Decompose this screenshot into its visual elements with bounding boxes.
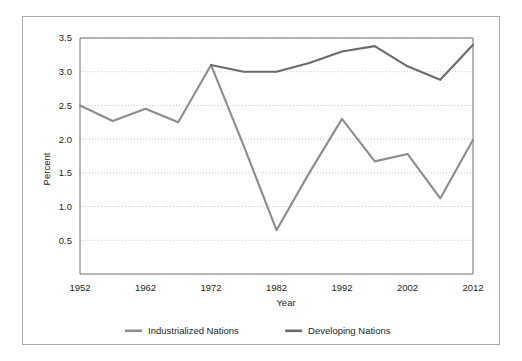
x-tick-label: 2012 [462,282,483,293]
chart-plot-area: 1952196219721982199220022012 0.51.01.52.… [23,17,501,346]
x-axis-title: Year [276,297,295,308]
series-group [80,45,473,230]
x-tick-labels: 1952196219721982199220022012 [69,282,483,293]
legend-label-0: Industrialized Nations [148,325,239,336]
y-tick-label: 1.5 [59,167,72,178]
x-tick-label: 1962 [135,282,156,293]
y-tick-label: 3.5 [59,32,72,43]
y-tick-label: 2.0 [59,134,72,145]
chart-figure: 1952196219721982199220022012 0.51.01.52.… [22,16,500,345]
x-tick-label: 1992 [331,282,352,293]
y-tick-label: 2.5 [59,100,72,111]
x-tick-label: 2002 [397,282,418,293]
chart-legend: Industrialized NationsDeveloping Nations [125,325,391,336]
y-tick-label: 0.5 [59,235,72,246]
y-tick-labels: 0.51.01.52.02.53.03.5 [59,32,72,245]
y-tick-label: 3.0 [59,66,72,77]
line-chart-svg: 1952196219721982199220022012 0.51.01.52.… [23,17,501,346]
x-tick-label: 1952 [69,282,90,293]
y-tick-label: 1.0 [59,201,72,212]
plot-frame [80,38,473,274]
x-tick-label: 1972 [200,282,221,293]
x-tick-label: 1982 [266,282,287,293]
legend-label-1: Developing Nations [308,325,391,336]
series-line-0 [80,65,473,230]
plot-border [80,38,473,274]
y-axis-title: Percent [41,152,52,185]
series-line-1 [211,45,473,80]
